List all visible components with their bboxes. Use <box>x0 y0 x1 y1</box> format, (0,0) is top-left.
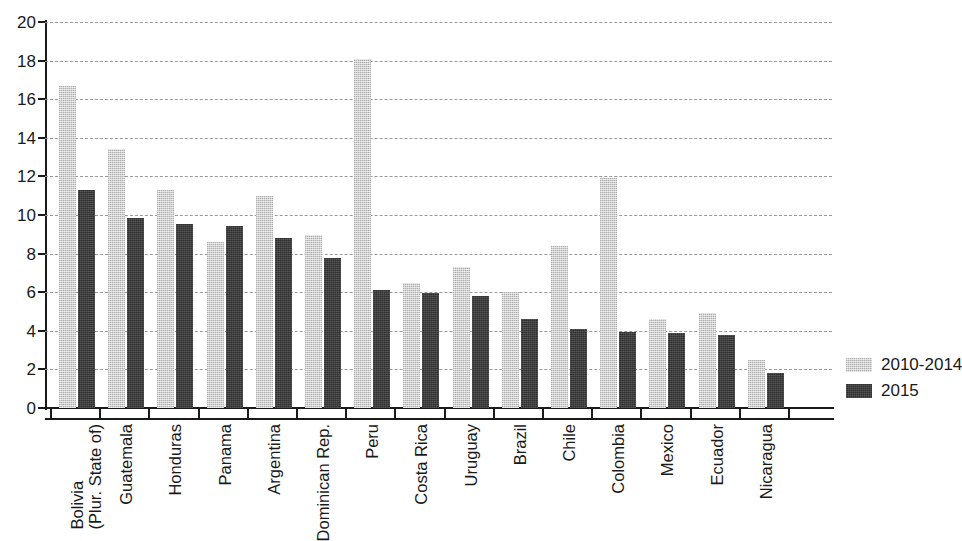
x-axis-tick-mark <box>99 409 101 419</box>
bar-2015 <box>422 293 439 408</box>
bar-2015 <box>373 290 390 408</box>
y-axis-tick-label: 16 <box>2 91 36 108</box>
bar-2010-2014 <box>551 246 568 408</box>
x-axis-category-label: Bolivia(Plur. State of) <box>69 424 105 529</box>
x-axis-category-label-line2: (Plur. State of) <box>87 424 105 529</box>
bar-2015 <box>127 218 144 408</box>
plot-area <box>45 22 832 408</box>
y-axis-tick-label: 20 <box>2 14 36 31</box>
y-axis-tick-label: 12 <box>2 168 36 185</box>
y-axis-tick-label: 14 <box>2 130 36 147</box>
x-axis-category-label-line1: Costa Rica <box>412 424 430 505</box>
bar-group <box>305 22 341 408</box>
bar-2010-2014 <box>600 178 617 408</box>
bar-2015 <box>78 190 95 408</box>
bar-group <box>649 22 685 408</box>
x-axis-category-label-line1: Nicaragua <box>757 424 775 499</box>
x-axis-category-label-line1: Colombia <box>609 424 627 494</box>
x-axis-tick-mark <box>542 409 544 419</box>
bar-2010-2014 <box>305 235 322 408</box>
bar-2015 <box>767 373 784 408</box>
x-axis-tick-mark <box>394 409 396 419</box>
bar-2015 <box>472 296 489 408</box>
bar-2010-2014 <box>699 313 716 408</box>
x-axis-tick-mark <box>247 409 249 419</box>
y-axis-tick-label: 2 <box>2 361 36 378</box>
x-axis-category-label-line1: Ecuador <box>708 424 726 485</box>
x-axis-tick-mark <box>739 409 741 419</box>
x-axis-category-label: Uruguay <box>463 424 481 486</box>
legend-item: 2010-2014 <box>846 352 962 378</box>
x-axis-category-label-line1: Mexico <box>658 424 676 476</box>
y-axis-tick-label: 8 <box>2 246 36 263</box>
bar-2015 <box>570 329 587 408</box>
legend: 2010-20142015 <box>846 352 962 404</box>
x-axis-tick-mark <box>640 409 642 419</box>
bar-2015 <box>176 224 193 408</box>
bar-group <box>157 22 193 408</box>
y-axis-tick-label: 0 <box>2 400 36 417</box>
bar-2010-2014 <box>649 319 666 408</box>
y-axis-tick-label: 10 <box>2 207 36 224</box>
bar-2010-2014 <box>256 196 273 408</box>
x-axis-tick-mark <box>493 409 495 419</box>
bar-group <box>108 22 144 408</box>
bar-2015 <box>275 238 292 408</box>
x-axis-category-label: Brazil <box>512 424 530 465</box>
x-axis-tick-mark <box>591 409 593 419</box>
legend-item: 2015 <box>846 378 962 404</box>
legend-item-label: 2010-2014 <box>881 355 962 375</box>
bar-group <box>502 22 538 408</box>
legend-swatch-icon <box>846 358 872 372</box>
y-axis-tick-label: 6 <box>2 284 36 301</box>
x-axis-tick-mark <box>345 409 347 419</box>
bar-group <box>600 22 636 408</box>
bar-group <box>59 22 95 408</box>
bar-2010-2014 <box>207 242 224 408</box>
x-axis-category-label-line1: Guatemala <box>117 424 135 505</box>
x-axis-category-label: Honduras <box>167 424 185 496</box>
legend-swatch-icon <box>846 384 872 398</box>
x-axis-category-label-line1: Honduras <box>166 424 184 496</box>
x-axis-category-label-line1: Peru <box>363 424 381 459</box>
x-axis-category-label: Costa Rica <box>413 424 431 505</box>
x-axis-category-label-line1: Panama <box>216 424 234 485</box>
bar-2010-2014 <box>108 149 125 408</box>
y-axis-tick-label: 18 <box>2 53 36 70</box>
bar-group <box>453 22 489 408</box>
x-axis-tick-mark <box>444 409 446 419</box>
x-axis-tick-mark <box>788 409 790 419</box>
bar-2010-2014 <box>453 267 470 408</box>
x-axis-category-label-line1: Uruguay <box>462 424 480 486</box>
bar-2010-2014 <box>403 283 420 408</box>
bar-2015 <box>226 226 243 408</box>
x-axis-category-label-line1: Bolivia <box>68 481 86 530</box>
bar-2015 <box>718 335 735 408</box>
legend-item-label: 2015 <box>881 381 919 401</box>
bar-2010-2014 <box>354 59 371 408</box>
bar-group <box>207 22 243 408</box>
x-axis-category-label: Argentina <box>266 424 284 495</box>
x-axis-tick-mark <box>198 409 200 419</box>
x-axis-category-label-line1: Chile <box>560 424 578 462</box>
bar-2015 <box>521 319 538 408</box>
bar-group <box>256 22 292 408</box>
bar-2010-2014 <box>157 190 174 408</box>
x-axis-category-label-line1: Dominican Rep. <box>314 424 332 541</box>
x-axis-category-label: Chile <box>561 424 579 462</box>
x-axis-category-label: Mexico <box>659 424 677 476</box>
x-axis-category-label: Peru <box>364 424 382 459</box>
x-axis-baseline-second <box>45 418 834 420</box>
bar-2015 <box>324 258 341 408</box>
bar-2010-2014 <box>502 292 519 408</box>
bar-2010-2014 <box>748 360 765 408</box>
x-axis-category-label-line1: Brazil <box>511 424 529 465</box>
x-axis-category-label: Nicaragua <box>758 424 776 499</box>
x-axis-category-label: Panama <box>217 424 235 485</box>
bar-group <box>403 22 439 408</box>
x-axis-tick-mark <box>296 409 298 419</box>
bar-group <box>699 22 735 408</box>
x-axis-category-label-line1: Argentina <box>265 424 283 495</box>
y-axis-tick-label: 4 <box>2 323 36 340</box>
